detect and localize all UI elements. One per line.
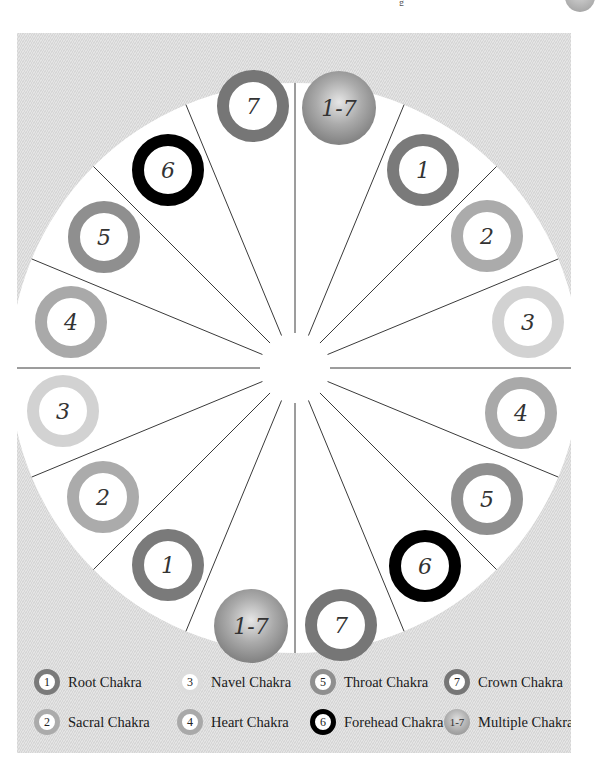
chakra-wheel: 1-712345671-71234567: [17, 33, 571, 663]
legend-item-root: 1 Root Chakra: [34, 668, 142, 696]
chakra-6-marker: 6: [395, 536, 455, 596]
chakra-5-marker: 5: [74, 207, 134, 267]
multiple-chakras-marker: 1-7: [302, 71, 376, 145]
multiple-chakras-icon: 1-7: [444, 709, 470, 735]
legend-item-sacral: 2 Sacral Chakra: [34, 708, 150, 736]
throat-chakra-icon: 5: [310, 669, 336, 695]
marker-label: 3: [56, 399, 70, 424]
multiple-chakras-marker: 1-7: [214, 589, 288, 663]
crown-chakra-icon: 7: [444, 669, 470, 695]
sacral-chakra-icon: 2: [34, 709, 60, 735]
legend-label: Sacral Chakra: [68, 714, 150, 731]
marker-label: 1: [416, 158, 430, 183]
legend-item-forehead: 6 Forehead Chakra: [310, 708, 443, 736]
chakra-7-marker: 7: [311, 595, 371, 655]
legend-label: Multiple Chakras: [478, 714, 571, 731]
legend: 1 Root Chakra 2 Sacral Chakra 3 Navel Ch…: [17, 663, 571, 753]
chakra-1-marker: 1: [393, 140, 453, 200]
marker-label: 1-7: [233, 614, 268, 639]
marker-label: 4: [513, 401, 528, 426]
heart-chakra-icon: 4: [177, 709, 203, 735]
marker-label: 2: [479, 224, 494, 249]
legend-item-throat: 5 Throat Chakra: [310, 668, 428, 696]
legend-label: Forehead Chakra: [344, 714, 443, 731]
legend-label: Crown Chakra: [478, 674, 563, 691]
marker-label: 7: [246, 94, 260, 119]
root-chakra-icon: 1: [34, 669, 60, 695]
legend-item-navel: 3 Navel Chakra: [177, 668, 291, 696]
legend-item-multiple: 1-7 Multiple Chakras: [444, 708, 571, 736]
legend-item-heart: 4 Heart Chakra: [177, 708, 289, 736]
chakra-3-marker: 3: [33, 381, 93, 441]
legend-label: Root Chakra: [68, 674, 142, 691]
page-header-fragment: g: [399, 0, 407, 6]
forehead-chakra-icon: 6: [310, 709, 336, 735]
legend-item-crown: 7 Crown Chakra: [444, 668, 563, 696]
chakra-2-marker: 2: [457, 206, 517, 266]
chakra-5-marker: 5: [457, 469, 517, 529]
marker-label: 7: [334, 613, 348, 638]
marker-label: 5: [480, 487, 494, 512]
chakra-4-marker: 4: [491, 383, 551, 443]
marker-label: 6: [161, 158, 175, 183]
marker-label: 1-7: [321, 96, 356, 121]
marker-label: 5: [97, 225, 111, 250]
legend-label: Throat Chakra: [344, 674, 428, 691]
marker-label: 3: [521, 310, 535, 335]
chakra-7-marker: 7: [223, 76, 283, 136]
chakra-6-marker: 6: [138, 140, 198, 200]
marker-label: 6: [418, 554, 432, 579]
wheel-hub: [260, 333, 330, 403]
chakra-4-marker: 4: [41, 292, 101, 352]
legend-label: Heart Chakra: [211, 714, 289, 731]
corner-decoration: [565, 0, 595, 12]
chakra-2-marker: 2: [73, 467, 133, 527]
diagram-panel: 1-712345671-71234567 1 Root Chakra 2 Sac…: [17, 33, 571, 753]
marker-label: 2: [95, 485, 110, 510]
marker-label: 1: [161, 553, 175, 578]
marker-label: 4: [63, 310, 78, 335]
chakra-1-marker: 1: [138, 535, 198, 595]
legend-label: Navel Chakra: [211, 674, 291, 691]
navel-chakra-icon: 3: [177, 669, 203, 695]
chakra-3-marker: 3: [498, 292, 558, 352]
